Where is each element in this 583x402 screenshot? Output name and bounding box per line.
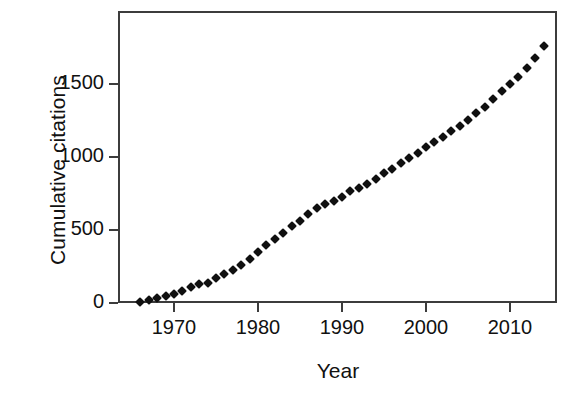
x-axis-tick bbox=[425, 303, 427, 312]
x-axis-tick-label: 1990 bbox=[302, 316, 382, 339]
citation-chart-figure: 05001000150019701980199020002010 Cumulat… bbox=[0, 0, 583, 402]
y-axis-tick bbox=[109, 229, 118, 231]
x-axis-tick bbox=[173, 303, 175, 312]
x-axis-tick bbox=[257, 303, 259, 312]
y-axis-tick bbox=[109, 156, 118, 158]
y-axis-tick bbox=[109, 302, 118, 304]
y-axis-title: Cumulative citations bbox=[46, 40, 70, 300]
x-axis-tick-label: 1980 bbox=[218, 316, 298, 339]
x-axis-tick-label: 2000 bbox=[386, 316, 466, 339]
x-axis-tick bbox=[509, 303, 511, 312]
x-axis-tick bbox=[341, 303, 343, 312]
x-axis-tick-label: 1970 bbox=[134, 316, 214, 339]
x-axis-title: Year bbox=[118, 359, 558, 383]
x-axis-tick-label: 2010 bbox=[470, 316, 550, 339]
y-axis-tick bbox=[109, 83, 118, 85]
plot-frame bbox=[118, 11, 557, 303]
